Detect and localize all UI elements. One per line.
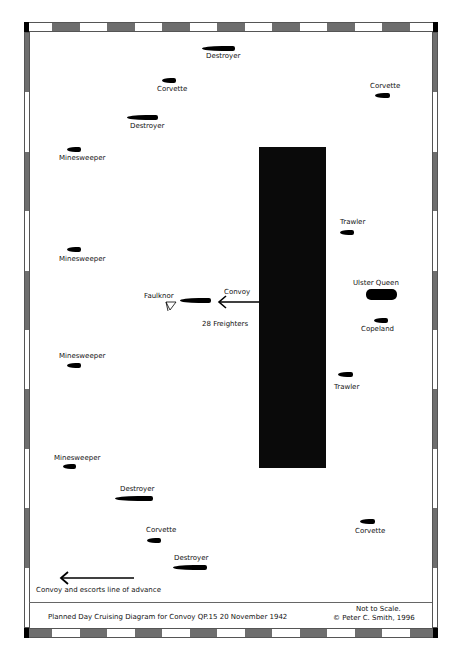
legend-text: Convoy and escorts line of advance — [36, 587, 161, 594]
ship-label: Corvette — [355, 528, 385, 535]
ship-label: Corvette — [146, 527, 176, 534]
ship-label: Minesweeper — [59, 155, 105, 162]
ship-icon — [374, 318, 388, 323]
ship-icon — [173, 565, 207, 570]
ship-label: Minesweeper — [59, 353, 105, 360]
ship-label: Ulster Queen — [353, 280, 399, 287]
ship-label: Corvette — [157, 86, 187, 93]
scale-note: Not to Scale. — [356, 606, 401, 613]
ship-label: Destroyer — [130, 123, 164, 130]
ship-label: Minesweeper — [59, 256, 105, 263]
ship-icon — [340, 230, 354, 235]
ship-icon — [147, 538, 161, 543]
convoy-label: Convoy — [224, 289, 250, 296]
freighters-label: 28 Freighters — [202, 321, 248, 328]
ship-label: Trawler — [334, 384, 359, 391]
ship-icon — [115, 496, 153, 501]
ship-icon — [375, 93, 390, 98]
ship-icon — [127, 115, 158, 120]
ship-icon — [67, 363, 81, 368]
ship-label: Faulknor — [144, 293, 174, 300]
ship-icon — [202, 46, 235, 51]
ship-label: Destroyer — [206, 53, 240, 60]
ship-icon — [67, 247, 81, 252]
ship-icon — [338, 372, 353, 377]
ship-label: Destroyer — [120, 486, 154, 493]
ship-icon — [360, 519, 375, 524]
ship-icon — [180, 298, 211, 303]
ship-icon — [366, 289, 397, 300]
ship-icon — [63, 464, 76, 469]
convoy-direction-arrow-icon — [0, 0, 462, 666]
ship-label: Minesweeper — [54, 455, 100, 462]
diagram-title: Planned Day Cruising Diagram for Convoy … — [48, 614, 287, 621]
ship-label: Copeland — [361, 326, 394, 333]
ship-label: Destroyer — [174, 555, 208, 562]
ship-label: Trawler — [340, 219, 365, 226]
ship-label: Corvette — [370, 83, 400, 90]
copyright-text: © Peter C. Smith, 1996 — [333, 615, 415, 622]
ship-icon — [162, 78, 176, 83]
ship-icon — [67, 147, 81, 152]
